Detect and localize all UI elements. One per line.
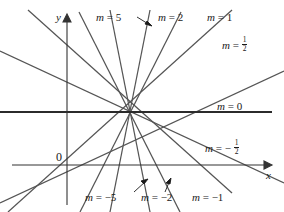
label-m-neg-half-var: m: [205, 142, 213, 154]
label-m-neg5-var: m: [85, 191, 93, 203]
label-m-2: m = 2: [158, 12, 183, 23]
label-m-neg-half-denominator: 2: [234, 148, 240, 156]
y-axis-label: y: [56, 12, 61, 23]
label-m-half-fraction: 1 2: [242, 36, 248, 53]
label-m-neg1: m = −1: [192, 192, 223, 203]
leader-m-5-head: [145, 21, 152, 26]
label-m-1: m = 1: [207, 12, 232, 23]
label-m-0-var: m: [217, 100, 225, 112]
label-m-neg5: m = −5: [85, 192, 116, 203]
label-m-5: m = 5: [96, 12, 121, 23]
label-m-neg1-var: m: [192, 191, 200, 203]
label-m-neg2: m = −2: [141, 192, 172, 203]
label-m-neg-half-sign: −: [225, 142, 231, 154]
label-m-5-var: m: [96, 11, 104, 23]
x-axis-arrowhead: [264, 161, 272, 169]
label-m-neg1-value: = −1: [203, 191, 224, 203]
label-m-0: m = 0: [217, 101, 242, 112]
label-m-half-eq: =: [233, 39, 239, 51]
label-m-neg-half-eq: =: [216, 142, 222, 154]
label-m-5-value: = 5: [107, 11, 121, 23]
label-m-neg-half: m = − 1 2: [205, 139, 239, 156]
label-m-half-var: m: [222, 39, 230, 51]
label-m-half: m = 1 2: [222, 36, 247, 53]
label-m-neg-half-fraction: 1 2: [234, 139, 240, 156]
label-m-2-var: m: [158, 11, 166, 23]
origin-label: 0: [56, 151, 62, 163]
leader-m-neg2-head: [166, 178, 171, 184]
x-axis-label: x: [266, 170, 271, 181]
label-m-neg5-value: = −5: [96, 191, 117, 203]
y-axis-arrowhead: [63, 14, 71, 22]
label-m-neg2-value: = −2: [152, 191, 173, 203]
line-m-neg-half: [0, 51, 284, 183]
label-m-1-value: = 1: [218, 11, 232, 23]
label-m-2-value: = 2: [169, 11, 183, 23]
label-m-1-var: m: [207, 11, 215, 23]
label-m-half-denominator: 2: [242, 45, 248, 53]
leader-m-neg5-head: [141, 179, 148, 184]
label-m-0-value: = 0: [228, 100, 242, 112]
slope-family-figure: y x 0 m = 5 m = 2 m = 1 m = 1 2 m = 0 m …: [0, 0, 284, 212]
label-m-neg2-var: m: [141, 191, 149, 203]
